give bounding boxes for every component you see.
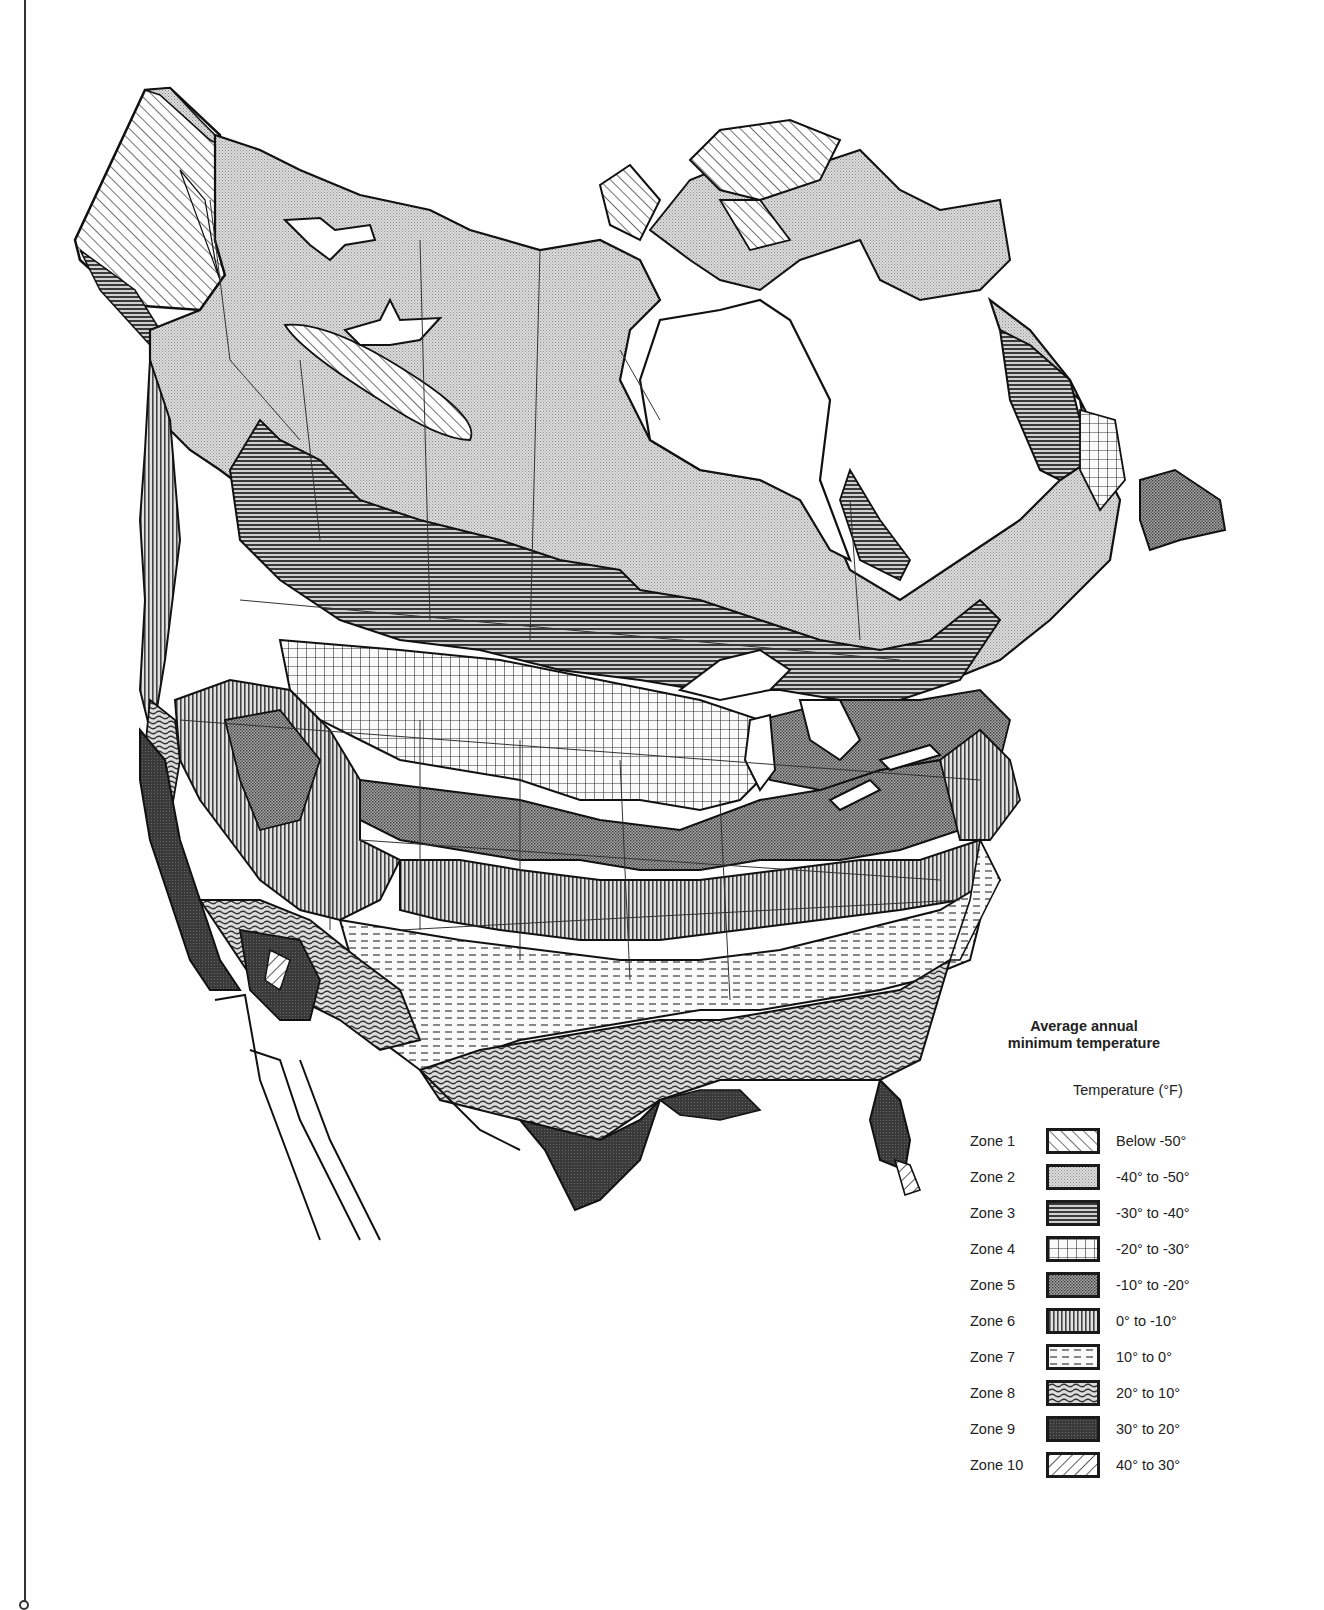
zone-label: Zone 8 — [970, 1385, 1030, 1401]
range-label: 40° to 30° — [1116, 1457, 1180, 1473]
legend-row-zone-4: Zone 4 -20° to -30° — [970, 1236, 1220, 1264]
zone-2-swatch — [1046, 1164, 1100, 1190]
zone-label: Zone 2 — [970, 1169, 1030, 1185]
zone-5-swatch — [1046, 1272, 1100, 1298]
zone3-quebec-strip — [840, 470, 910, 580]
legend-row-zone-6: Zone 6 0° to -10° — [970, 1308, 1220, 1336]
zone-label: Zone 6 — [970, 1313, 1030, 1329]
zone-10-swatch — [1046, 1452, 1100, 1478]
legend-row-zone-3: Zone 3 -30° to -40° — [970, 1200, 1220, 1228]
range-label: 0° to -10° — [1116, 1313, 1177, 1329]
zone-7-swatch — [1046, 1344, 1100, 1370]
zone-4-swatch — [1046, 1236, 1100, 1262]
range-label: -40° to -50° — [1116, 1169, 1190, 1185]
zone-9-swatch — [1046, 1416, 1100, 1442]
zone-1-swatch — [1046, 1128, 1100, 1154]
legend-row-zone-10: Zone 10 40° to 30° — [970, 1452, 1220, 1480]
range-label: 10° to 0° — [1116, 1349, 1172, 1365]
legend-title: Average annual minimum temperature — [994, 1018, 1174, 1052]
zone10-florida-tip — [895, 1160, 920, 1195]
legend-title-line-1: Average annual — [994, 1018, 1174, 1035]
zone-label: Zone 4 — [970, 1241, 1030, 1257]
legend-unit-label: Temperature (°F) — [1073, 1082, 1183, 1098]
range-label: -20° to -30° — [1116, 1241, 1190, 1257]
zone-label: Zone 5 — [970, 1277, 1030, 1293]
legend-row-zone-7: Zone 7 10° to 0° — [970, 1344, 1220, 1372]
range-label: 30° to 20° — [1116, 1421, 1180, 1437]
zone-label: Zone 3 — [970, 1205, 1030, 1221]
legend-row-zone-1: Zone 1 Below -50° — [970, 1128, 1220, 1156]
range-label: -30° to -40° — [1116, 1205, 1190, 1221]
zone-6-swatch — [1046, 1308, 1100, 1334]
range-label: -10° to -20° — [1116, 1277, 1190, 1293]
legend-row-zone-5: Zone 5 -10° to -20° — [970, 1272, 1220, 1300]
legend-row-zone-8: Zone 8 20° to 10° — [970, 1380, 1220, 1408]
range-label: Below -50° — [1116, 1133, 1186, 1149]
zone9-florida — [870, 1080, 910, 1170]
zone-label: Zone 1 — [970, 1133, 1030, 1149]
zone-label: Zone 10 — [970, 1457, 1030, 1473]
zone-label: Zone 9 — [970, 1421, 1030, 1437]
legend: Average annual minimum temperature Tempe… — [970, 1018, 1220, 1052]
zone5-newfoundland — [1140, 470, 1225, 550]
zone-label: Zone 7 — [970, 1349, 1030, 1365]
range-label: 20° to 10° — [1116, 1385, 1180, 1401]
legend-title-line-2: minimum temperature — [994, 1035, 1174, 1052]
zone-3-swatch — [1046, 1200, 1100, 1226]
legend-row-zone-9: Zone 9 30° to 20° — [970, 1416, 1220, 1444]
zone-8-swatch — [1046, 1380, 1100, 1406]
legend-row-zone-2: Zone 2 -40° to -50° — [970, 1164, 1220, 1192]
